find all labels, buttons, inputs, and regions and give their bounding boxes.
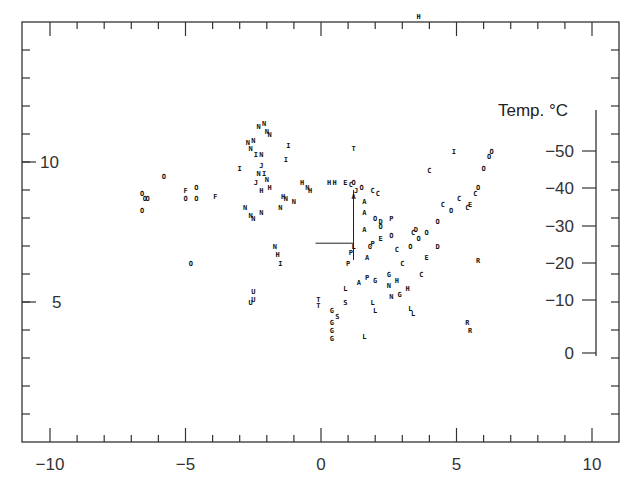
data-point: O	[481, 165, 485, 173]
data-point: N	[248, 145, 252, 153]
data-point: C	[419, 271, 423, 279]
data-point: R	[468, 327, 473, 335]
data-point: F	[213, 193, 217, 201]
data-point: H	[395, 277, 399, 285]
data-point: A	[362, 198, 367, 206]
data-point: J	[254, 179, 258, 187]
data-points: OOOOOOOOOOOOOOOOOOOOOOONNNNNNNNNNNNNNNNN…	[140, 13, 494, 343]
data-point: N	[243, 204, 247, 212]
data-point: I	[286, 142, 290, 150]
data-point: G	[330, 327, 334, 335]
data-point: N	[292, 198, 296, 206]
data-point: O	[360, 184, 364, 192]
data-point: N	[389, 293, 393, 301]
data-point: N	[273, 243, 277, 251]
data-point: E	[343, 179, 347, 187]
data-point: H	[267, 184, 271, 192]
data-point: G	[397, 291, 401, 299]
data-point: O	[373, 215, 377, 223]
temp-tick-label: −40	[545, 179, 574, 198]
data-point: L	[411, 310, 415, 318]
data-point: C	[395, 246, 399, 254]
data-point: C	[400, 260, 404, 268]
data-point: D	[414, 226, 418, 234]
data-point: N	[259, 209, 263, 217]
data-point: S	[335, 313, 339, 321]
data-point: E	[468, 201, 472, 209]
data-point: D	[435, 243, 439, 251]
data-point: D	[379, 218, 383, 226]
y-axis-labels: 510	[22, 153, 61, 312]
data-point: C	[441, 201, 445, 209]
plot-frame	[22, 22, 619, 442]
data-point: H	[416, 13, 420, 21]
data-point: T	[316, 302, 320, 310]
data-point: H	[332, 179, 336, 187]
data-point: O	[416, 235, 420, 243]
data-point: G	[373, 277, 377, 285]
data-point: N	[259, 151, 263, 159]
data-point: T	[351, 145, 355, 153]
data-point: O	[490, 148, 494, 156]
data-point: H	[300, 179, 304, 187]
data-point: I	[254, 151, 258, 159]
data-point: H	[281, 193, 285, 201]
temp-tick-label: −50	[545, 142, 574, 161]
data-point: O	[389, 232, 393, 240]
data-point: C	[376, 190, 380, 198]
temp-tick-label: 0	[565, 344, 574, 363]
temp-tick-label: −20	[545, 254, 574, 273]
data-point: G	[330, 335, 334, 343]
data-point: L	[370, 299, 374, 307]
data-point: O	[449, 207, 453, 215]
data-point: C	[457, 195, 461, 203]
data-point: O	[140, 207, 144, 215]
temperature-axis-title: Temp. °C	[498, 101, 568, 120]
data-point: S	[343, 299, 347, 307]
data-point: C	[473, 190, 477, 198]
x-tick-label: 10	[583, 455, 602, 474]
data-point: U	[251, 288, 255, 296]
y-tick-label: 5	[52, 293, 61, 312]
data-point: J	[259, 162, 263, 170]
data-point: A	[357, 279, 362, 287]
data-point: G	[387, 271, 391, 279]
data-point: P	[365, 274, 369, 282]
data-point: N	[251, 137, 255, 145]
data-point: N	[251, 215, 255, 223]
data-point: N	[257, 123, 261, 131]
data-point: P	[389, 215, 393, 223]
x-tick-label: −10	[36, 455, 65, 474]
data-point: E	[379, 235, 383, 243]
data-point: I	[452, 148, 456, 156]
data-point: N	[278, 204, 282, 212]
data-point: R	[465, 319, 470, 327]
data-point: L	[351, 243, 355, 251]
temp-tick-label: −30	[545, 217, 574, 236]
data-point: I	[238, 165, 242, 173]
data-point: L	[362, 333, 366, 341]
data-point: I	[284, 156, 288, 164]
data-point: A	[362, 209, 367, 217]
data-point: F	[183, 187, 187, 195]
data-point: G	[368, 243, 372, 251]
x-tick-label: 0	[316, 455, 325, 474]
data-point: N	[257, 170, 261, 178]
data-point: C	[370, 187, 374, 195]
data-point: H	[406, 285, 410, 293]
data-point: G	[330, 319, 334, 327]
data-point: U	[248, 299, 252, 307]
data-point: G	[330, 307, 334, 315]
data-point: J	[354, 187, 358, 195]
data-point: H	[327, 179, 331, 187]
data-point: P	[346, 260, 350, 268]
data-point: L	[373, 307, 377, 315]
data-point: A	[362, 226, 367, 234]
data-point: L	[343, 285, 347, 293]
data-point: H	[276, 251, 280, 259]
x-axis-ticks	[50, 22, 592, 442]
data-point: O	[194, 195, 198, 203]
temp-tick-label: −10	[545, 291, 574, 310]
data-point: R	[476, 257, 481, 265]
data-point: O	[183, 195, 187, 203]
